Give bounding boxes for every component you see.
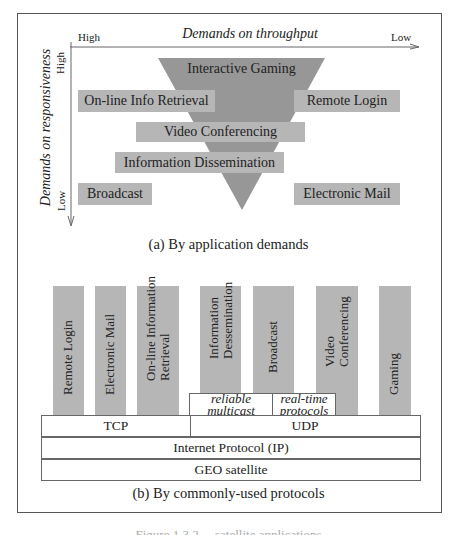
app-label: Gaming <box>387 353 401 395</box>
figure-caption: Figure 1.3.2 ... satellite applications <box>0 526 457 535</box>
app-bar-remote-login: Remote Login <box>53 286 84 415</box>
app-label-line2: Conferencing <box>337 296 351 367</box>
y-axis-title: Demands on responsiveness <box>38 40 54 215</box>
bar-remote-login: Remote Login <box>294 90 400 112</box>
bar-electronic-mail: Electronic Mail <box>294 183 400 205</box>
app-label: Electronic Mail <box>103 314 117 395</box>
ip-layer: Internet Protocol (IP) <box>41 437 421 459</box>
app-label: On-line Information <box>144 276 158 381</box>
app-label: Broadcast <box>266 321 280 373</box>
bar-video-conferencing: Video Conferencing <box>136 122 305 142</box>
app-bar-online-information-retrieval: On-line InformationRetrieval <box>137 286 179 415</box>
app-bar-electronic-mail: Electronic Mail <box>95 286 126 415</box>
reliable-multicast-box: reliable multicast <box>189 393 273 416</box>
panel-a-caption: (a) By application demands <box>0 236 457 253</box>
y-axis-low-label: Low <box>55 191 67 211</box>
x-axis-low-label: Low <box>391 31 411 43</box>
app-label: Information <box>207 282 221 359</box>
app-bar-information-dissemination: InformationDessemination <box>200 286 241 393</box>
bar-information-dissemination: Information Dissemination <box>115 152 284 173</box>
tcp-cell: TCP <box>42 416 191 436</box>
app-label-line2: Dessemination <box>221 282 235 359</box>
panel-b-caption: (b) By commonly-used protocols <box>0 485 457 502</box>
y-axis-high-label: High <box>54 52 66 74</box>
real-time-protocols-box: real-time protocols <box>272 393 336 416</box>
x-axis-high-label: High <box>78 31 100 43</box>
app-label-line2: Retrieval <box>158 276 172 381</box>
app-label: Video <box>323 296 337 367</box>
x-axis-title: Demands on throughput <box>180 26 320 42</box>
app-bar-gaming: Gaming <box>379 286 411 415</box>
transport-layer: TCP UDP <box>41 415 421 437</box>
bar-broadcast: Broadcast <box>78 183 152 205</box>
udp-cell: UDP <box>190 416 420 436</box>
app-bar-broadcast: Broadcast <box>253 286 294 393</box>
geo-satellite-layer: GEO satellite <box>41 459 421 481</box>
app-label: Remote Login <box>61 320 75 395</box>
bar-online-info-retrieval: On-line Info Retrieval <box>78 90 215 112</box>
triangle-label: Interactive Gaming <box>158 61 325 77</box>
